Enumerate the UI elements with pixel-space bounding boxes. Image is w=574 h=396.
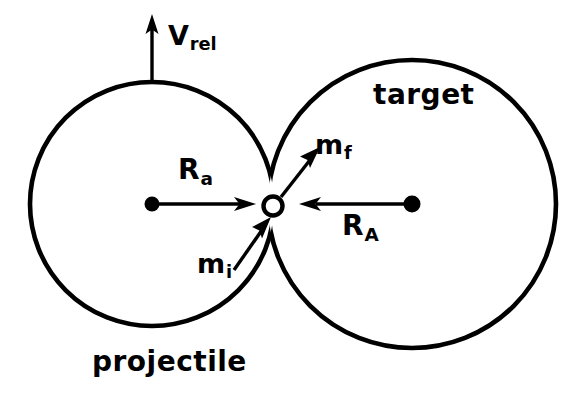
label-projectile: projectile [92,348,247,376]
diagram-canvas [0,0,574,396]
label-r-a-base: R [178,153,200,186]
label-m-i: mi [197,250,232,277]
v-rel-arrow [146,14,159,80]
projectile-center-dot [145,197,160,212]
label-r-A-base: R [342,209,364,242]
target-center-dot [404,196,421,213]
label-r-A-capital: RA [342,212,378,240]
label-v-rel-base: V [168,20,189,51]
label-r-A-sub: A [364,224,378,245]
label-m-i-base: m [197,248,226,279]
label-m-f-base: m [315,129,344,160]
contact-point-circle [264,197,283,216]
label-r-a-sub: a [200,168,212,189]
label-m-f: mf [315,131,351,158]
label-target: target [373,81,475,109]
label-r-a: Ra [178,156,213,184]
label-m-f-sub: f [344,142,352,163]
label-v-rel-sub: rel [190,33,217,54]
label-m-i-sub: i [226,261,232,282]
collision-diagram: Vrel target mf Ra RA mi projectile [0,0,574,396]
label-v-rel: Vrel [168,22,216,49]
r-a-arrow [145,197,257,212]
